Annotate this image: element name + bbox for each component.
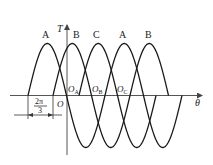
curve-label-b2: B: [145, 29, 152, 40]
y-axis-label: T: [57, 23, 64, 34]
torque-angle-diagram: A B C A B T θ O OA OB OC 2π 3: [0, 0, 213, 165]
origin-b-label: OB: [92, 84, 103, 95]
dimension-denominator: 3: [38, 106, 42, 115]
curve-label-b1: B: [73, 29, 80, 40]
origin-a-label: OA: [68, 84, 80, 95]
x-axis-label: θ: [195, 97, 200, 108]
origin-c-label: OC: [117, 84, 128, 95]
origin-label: O: [57, 99, 64, 109]
curve-b-4: [130, 44, 169, 96]
curve-label-a2: A: [119, 29, 127, 40]
phase-shift-dimension: 2π 3: [14, 96, 62, 119]
curve-label-a1: A: [42, 29, 50, 40]
curve-label-c: C: [93, 29, 100, 40]
dimension-numerator: 2π: [35, 97, 43, 106]
